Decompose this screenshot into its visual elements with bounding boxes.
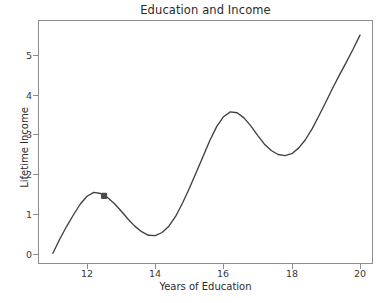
x-tick-label-12: 12 — [72, 268, 102, 279]
x-tick-label-18: 18 — [277, 268, 307, 279]
y-tick-label-1: 1 — [10, 209, 32, 220]
chart-title: Education and Income — [38, 3, 373, 17]
x-axis-label: Years of Education — [38, 281, 373, 292]
y-tick-label-2: 2 — [10, 169, 32, 180]
y-tick-label-4: 4 — [10, 90, 32, 101]
x-tick-label-20: 20 — [345, 268, 375, 279]
x-tick-label-16: 16 — [208, 268, 238, 279]
y-tick-label-5: 5 — [10, 50, 32, 61]
y-axis-tick-labels: 0 1 2 3 4 5 — [0, 0, 32, 303]
y-tick-label-0: 0 — [10, 249, 32, 260]
x-tick-label-14: 14 — [140, 268, 170, 279]
figure-canvas: Education and Income Lifetime Income 0 1… — [0, 0, 386, 303]
plot-area — [38, 20, 373, 264]
y-tick-label-3: 3 — [10, 129, 32, 140]
